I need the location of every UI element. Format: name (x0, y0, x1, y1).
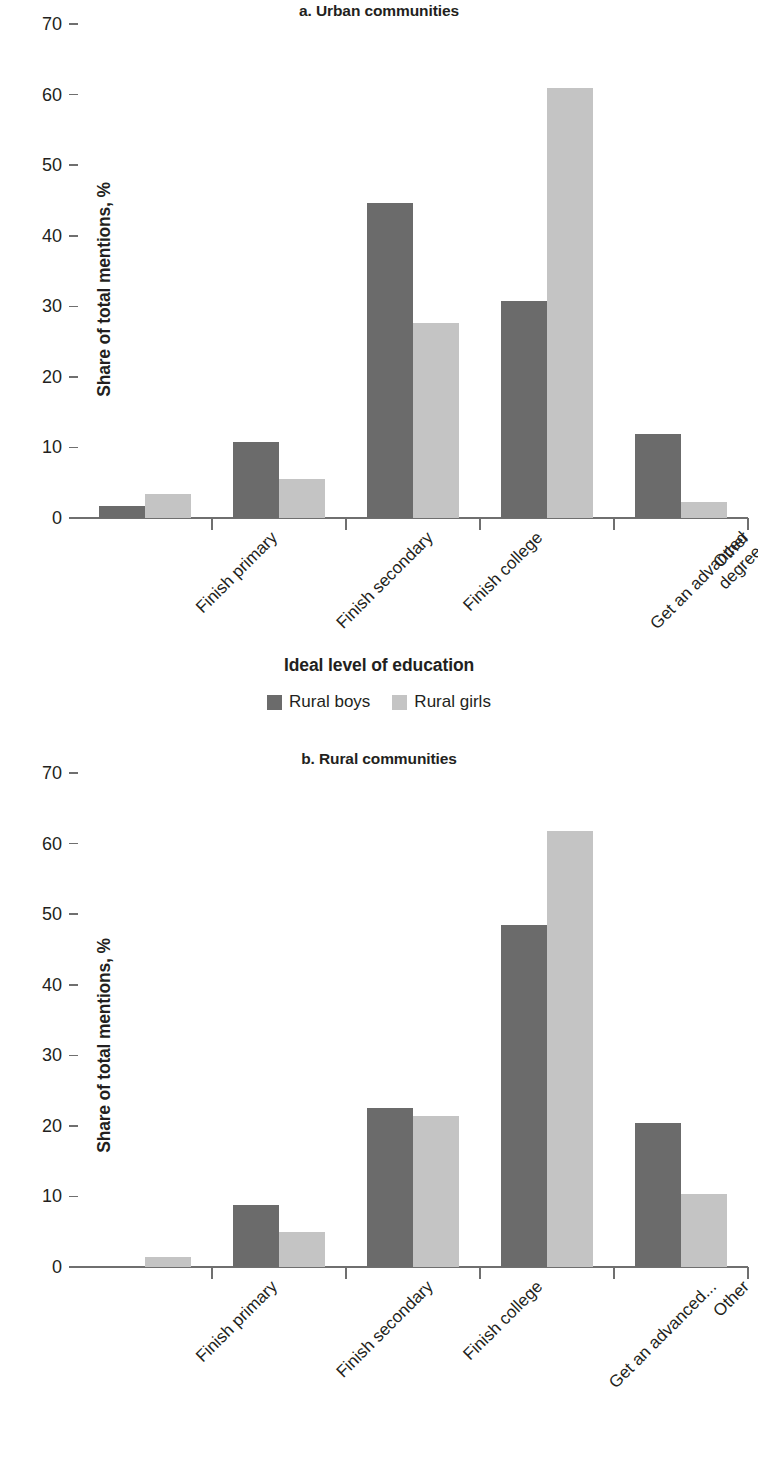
x-axis-category-label: Other (710, 1277, 754, 1321)
y-axis-tick-label: 50 (42, 905, 62, 923)
y-axis-tick: 30 (69, 306, 78, 308)
x-axis-category-label: Get an advanced... (605, 1277, 721, 1393)
bar-girls (413, 323, 459, 518)
chart-panel-rural-communities: b. Rural communities Share of total ment… (0, 740, 758, 1470)
bar-boys (635, 1123, 681, 1267)
legend-label: Rural girls (414, 692, 491, 712)
y-axis-tick: 40 (69, 235, 78, 237)
bar-girls (681, 502, 727, 518)
y-axis-tick-label: 20 (42, 368, 62, 386)
panel-a-legend: Rural boysRural girls (0, 692, 758, 712)
y-axis-tick-label: 30 (42, 297, 62, 315)
bar-group (346, 773, 480, 1267)
y-axis-tick-label: 60 (42, 86, 62, 104)
bar-girls (547, 88, 593, 518)
y-axis-tick: 70 (69, 23, 78, 25)
bar-girls (279, 1232, 325, 1267)
y-axis-tick-label: 0 (52, 1258, 62, 1276)
y-axis-tick-label: 10 (42, 1187, 62, 1205)
panel-a-title: a. Urban communities (0, 2, 758, 20)
y-axis-tick: 20 (69, 1125, 78, 1127)
bar-girls (145, 1257, 191, 1267)
y-axis-tick-label: 60 (42, 835, 62, 853)
y-axis-tick: 60 (69, 94, 78, 96)
panel-a-x-axis-title: Ideal level of education (0, 655, 758, 676)
y-axis-tick: 10 (69, 1196, 78, 1198)
bar-boys (367, 1108, 413, 1267)
bar-girls (279, 479, 325, 518)
panel-a-x-axis-labels: Finish primaryFinish secondaryFinish col… (78, 528, 748, 648)
bar-boys (501, 925, 547, 1267)
y-axis-tick: 70 (69, 772, 78, 774)
y-axis-tick-label: 70 (42, 764, 62, 782)
panel-a-plot-area: Share of total mentions, % 0102030405060… (78, 24, 748, 518)
x-axis-category-label: Finish college (460, 528, 548, 616)
bar-group (346, 24, 480, 518)
bar-girls (145, 494, 191, 518)
y-axis-tick-label: 10 (42, 438, 62, 456)
bar-boys (367, 203, 413, 518)
bar-boys (635, 434, 681, 518)
panel-b-plot-area: Share of total mentions, % 0102030405060… (78, 773, 748, 1267)
bar-group (212, 773, 346, 1267)
y-axis-tick-label: 50 (42, 156, 62, 174)
legend-swatch (392, 695, 407, 710)
y-axis-tick: 0 (69, 1266, 78, 1268)
bar-girls (413, 1116, 459, 1267)
y-axis-tick-label: 0 (52, 509, 62, 527)
legend-swatch (267, 695, 282, 710)
y-axis-tick: 30 (69, 1055, 78, 1057)
x-axis-category-label: Finish primary (192, 528, 282, 618)
bar-group (212, 24, 346, 518)
panel-b-x-axis-labels: Finish primaryFinish secondaryFinish col… (78, 1277, 748, 1397)
legend-item-boys: Rural boys (267, 692, 370, 712)
panel-b-title: b. Rural communities (0, 750, 758, 768)
y-axis-tick: 0 (69, 517, 78, 519)
bar-group (78, 773, 212, 1267)
bar-boys (501, 301, 547, 518)
bar-group (78, 24, 212, 518)
bar-boys (99, 506, 145, 518)
y-axis-tick-label: 70 (42, 15, 62, 33)
x-axis-category-label: Finish secondary (333, 1277, 438, 1382)
y-axis-tick: 10 (69, 447, 78, 449)
bar-boys (233, 1205, 279, 1267)
y-axis-tick-label: 30 (42, 1046, 62, 1064)
y-axis-tick: 50 (69, 913, 78, 915)
x-axis-category-label: Finish secondary (333, 528, 438, 633)
legend-item-girls: Rural girls (392, 692, 491, 712)
legend-label: Rural boys (289, 692, 370, 712)
y-axis-tick-label: 40 (42, 227, 62, 245)
bar-boys (233, 442, 279, 518)
bar-group (614, 24, 748, 518)
y-axis-tick-label: 20 (42, 1117, 62, 1135)
y-axis-tick: 40 (69, 984, 78, 986)
x-axis-category-label: Finish primary (192, 1277, 282, 1367)
y-axis-tick: 60 (69, 843, 78, 845)
y-axis-tick: 20 (69, 376, 78, 378)
bar-group (614, 773, 748, 1267)
bar-group (480, 773, 614, 1267)
chart-panel-urban-communities: a. Urban communities Share of total ment… (0, 0, 758, 740)
y-axis-tick: 50 (69, 164, 78, 166)
bar-girls (681, 1194, 727, 1267)
y-axis-tick-label: 40 (42, 976, 62, 994)
bar-girls (547, 831, 593, 1267)
x-axis-category-label: Finish college (460, 1277, 548, 1365)
bar-group (480, 24, 614, 518)
